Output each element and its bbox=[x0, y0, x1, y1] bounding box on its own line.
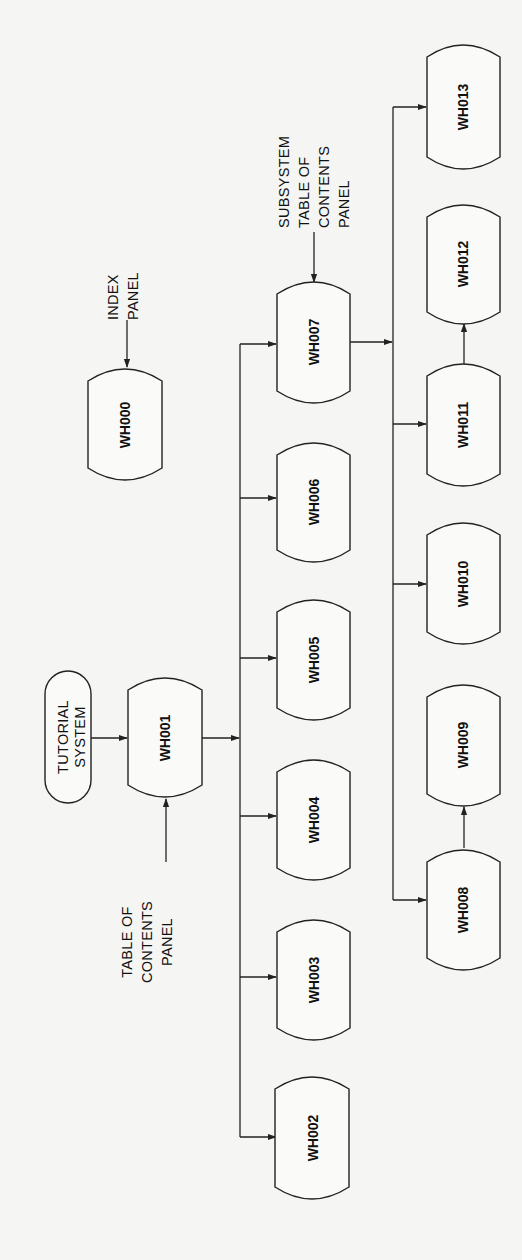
toc-panel-annotation: TABLE OF CONTENTS PANEL bbox=[119, 901, 175, 983]
tutorial-system-terminator: TUTORIAL SYSTEM bbox=[45, 671, 91, 803]
node-wh007: WH007 bbox=[277, 282, 350, 403]
diagram-page: TUTORIAL SYSTEM WH001 WH000 WH007 WH006 … bbox=[0, 0, 522, 1260]
node-label: WH010 bbox=[455, 560, 471, 607]
node-label: WH000 bbox=[117, 401, 133, 448]
node-label: WH009 bbox=[455, 721, 471, 768]
node-label: WH003 bbox=[306, 956, 322, 1003]
node-wh005: WH005 bbox=[277, 600, 350, 720]
node-label: WH007 bbox=[306, 318, 322, 365]
index-panel-annotation: INDEX PANEL bbox=[105, 272, 141, 320]
toc-panel-line-2: CONTENTS bbox=[139, 901, 155, 983]
node-label: WH005 bbox=[306, 636, 322, 683]
node-wh009: WH009 bbox=[427, 685, 500, 806]
node-wh004: WH004 bbox=[277, 760, 350, 880]
subsystem-toc-annotation: SUBSYSTEM TABLE OF CONTENTS PANEL bbox=[276, 136, 352, 228]
node-label: WH004 bbox=[306, 796, 322, 843]
subsystem-toc-line-4: PANEL bbox=[336, 180, 352, 228]
node-wh001: WH001 bbox=[128, 678, 202, 797]
index-panel-line-2: PANEL bbox=[125, 272, 141, 320]
node-wh010: WH010 bbox=[427, 523, 500, 644]
index-panel-line-1: INDEX bbox=[105, 274, 121, 320]
node-label: WH013 bbox=[455, 83, 471, 130]
node-wh013: WH013 bbox=[427, 45, 500, 169]
node-label: WH008 bbox=[455, 886, 471, 933]
node-wh006: WH006 bbox=[277, 443, 350, 562]
node-wh012: WH012 bbox=[427, 205, 500, 324]
subsystem-toc-line-2: TABLE OF bbox=[296, 157, 312, 228]
flowchart-canvas: TUTORIAL SYSTEM WH001 WH000 WH007 WH006 … bbox=[0, 0, 522, 1260]
node-wh011: WH011 bbox=[427, 364, 500, 486]
node-wh008: WH008 bbox=[427, 850, 500, 970]
node-wh002: WH002 bbox=[275, 1077, 349, 1199]
toc-panel-line-3: PANEL bbox=[159, 918, 175, 966]
node-label: WH011 bbox=[455, 402, 471, 448]
node-label: WH012 bbox=[455, 240, 471, 287]
node-wh003: WH003 bbox=[277, 920, 350, 1040]
node-label: WH002 bbox=[305, 1114, 321, 1161]
toc-panel-line-1: TABLE OF bbox=[119, 906, 135, 977]
tutorial-system-label-2: SYSTEM bbox=[72, 706, 88, 767]
subsystem-toc-line-1: SUBSYSTEM bbox=[276, 136, 292, 228]
node-wh000: WH000 bbox=[88, 369, 162, 480]
subsystem-toc-line-3: CONTENTS bbox=[316, 146, 332, 228]
node-label: WH006 bbox=[306, 478, 322, 525]
tutorial-system-label-1: TUTORIAL bbox=[55, 700, 71, 774]
node-label: WH001 bbox=[157, 714, 173, 761]
